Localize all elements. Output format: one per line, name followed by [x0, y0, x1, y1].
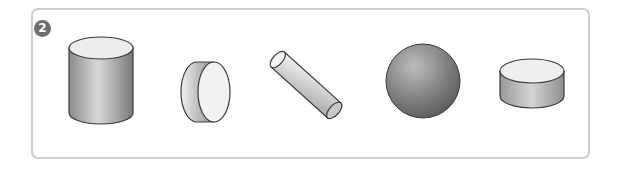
cylinder-shape — [69, 37, 133, 124]
flat-disc-shape — [500, 59, 564, 108]
short-cylinder-side-shape — [181, 62, 230, 122]
shapes-figure — [0, 0, 618, 172]
sphere-shape — [386, 44, 460, 118]
tilted-rod-shape — [267, 49, 344, 121]
